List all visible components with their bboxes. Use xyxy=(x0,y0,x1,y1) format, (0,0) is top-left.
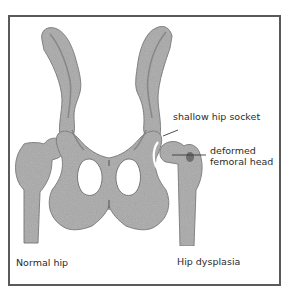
right-ilium xyxy=(136,26,172,136)
left-ilium xyxy=(42,28,81,136)
right-foramen xyxy=(116,159,141,195)
label-normal-hip: Normal hip xyxy=(16,258,68,269)
label-hip-dysplasia: Hip dysplasia xyxy=(177,257,240,268)
label-deformed-femoral-head: deformed femoral head xyxy=(210,146,273,168)
label-shallow-hip-socket: shallow hip socket xyxy=(173,112,260,123)
label-deformed-line2: femoral head xyxy=(210,157,273,168)
pelvis-body xyxy=(49,131,169,230)
left-foramen xyxy=(78,159,103,195)
